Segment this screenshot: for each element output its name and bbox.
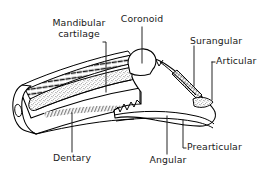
- label-mandibular-cartilage-line2: cartilage: [48, 29, 110, 40]
- leader-articular: [212, 62, 215, 100]
- label-mandibular-cartilage-line1: Mandibular: [48, 18, 110, 29]
- label-dentary: Dentary: [44, 153, 100, 164]
- jaw-outline-group: [13, 49, 216, 134]
- label-coronoid: Coronoid: [113, 14, 171, 25]
- label-angular: Angular: [140, 155, 196, 166]
- label-surangular: Surangular: [190, 36, 242, 47]
- label-prearticular: Prearticular: [187, 142, 242, 153]
- figure-canvas: Mandibular cartilage Coronoid Surangular…: [0, 0, 275, 175]
- label-articular: Articular: [216, 56, 256, 67]
- label-mandibular-cartilage: Mandibular cartilage: [48, 18, 110, 39]
